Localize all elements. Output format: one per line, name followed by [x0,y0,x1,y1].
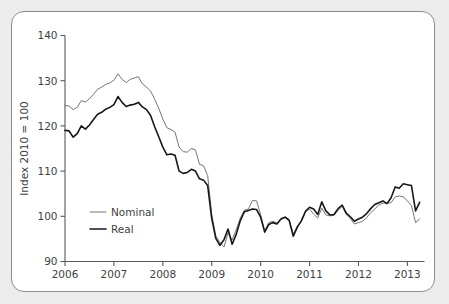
x-axis: 20062007200820092010201120122013 [52,262,425,281]
chart-legend: NominalReal [90,206,154,235]
x-axis-tick-label: 2008 [149,268,176,280]
y-axis-tick-label: 110 [37,165,57,177]
x-axis-tick-label: 2010 [247,268,274,280]
x-axis-tick-label: 2011 [296,268,323,280]
y-axis-title-text: Index 2010 = 100 [18,101,30,195]
x-axis-tick-label: 2006 [52,268,79,280]
y-axis: 90100110120130140 [37,29,65,267]
legend-label-real: Real [111,223,134,235]
x-axis-tick-label: 2012 [345,268,372,280]
series-line-nominal [65,74,420,247]
x-axis-tick-label: 2013 [394,268,421,280]
x-axis-tick-label: 2009 [198,268,225,280]
y-axis-tick-label: 100 [37,210,57,222]
y-axis-title: Index 2010 = 100 [18,101,30,195]
y-axis-tick-label: 140 [37,29,57,41]
y-axis-tick-label: 120 [37,120,57,132]
y-axis-tick-label: 90 [44,255,57,267]
y-axis-tick-label: 130 [37,75,57,87]
x-axis-tick-label: 2007 [101,268,128,280]
chart-figure: 90100110120130140 2006200720082009201020… [0,0,449,304]
legend-label-nominal: Nominal [111,206,154,218]
line-chart-svg: 90100110120130140 2006200720082009201020… [0,0,449,304]
series-group [65,74,420,247]
